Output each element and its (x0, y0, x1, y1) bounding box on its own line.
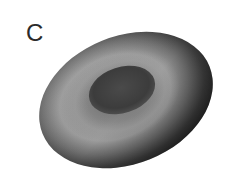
biconcave-disc-figure (0, 0, 231, 190)
